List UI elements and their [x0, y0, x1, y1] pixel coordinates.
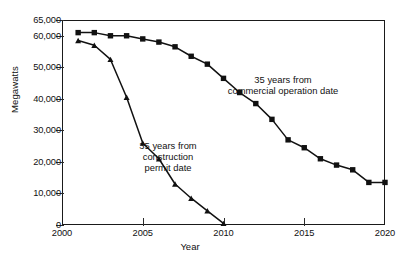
x-tick-2010	[224, 218, 225, 226]
y-tick-label-50000: 50,000	[1, 62, 61, 72]
x-tick-2015	[304, 218, 305, 226]
x-tick-2005	[143, 218, 144, 226]
x-tick-label-2020: 2020	[355, 228, 410, 238]
y-tick-label-60000: 60,000	[1, 31, 61, 41]
x-axis-title-text: Year	[180, 241, 199, 252]
y-tick-label-40000: 40,000	[1, 94, 61, 104]
annotation-construction-permit: 35 years from construction permit date	[122, 140, 214, 174]
plot-area	[62, 20, 385, 225]
y-tick-label-20000: 20,000	[1, 157, 61, 167]
x-tick-label-2015: 2015	[274, 228, 334, 238]
y-tick-label-65000: 65,000	[1, 15, 61, 25]
y-tick-label-30000: 30,000	[1, 125, 61, 135]
y-tick-label-10000: 10,000	[1, 188, 61, 198]
annotation-commercial-operation: 35 years from commercial operation date	[218, 74, 348, 96]
x-tick-label-2000: 2000	[32, 228, 92, 238]
x-tick-label-2010: 2010	[194, 228, 254, 238]
x-axis-title: Year	[0, 241, 410, 252]
x-tick-label-2005: 2005	[113, 228, 173, 238]
chart-root: Megawatts Year 010,00020,00030,00040,000…	[0, 0, 410, 260]
